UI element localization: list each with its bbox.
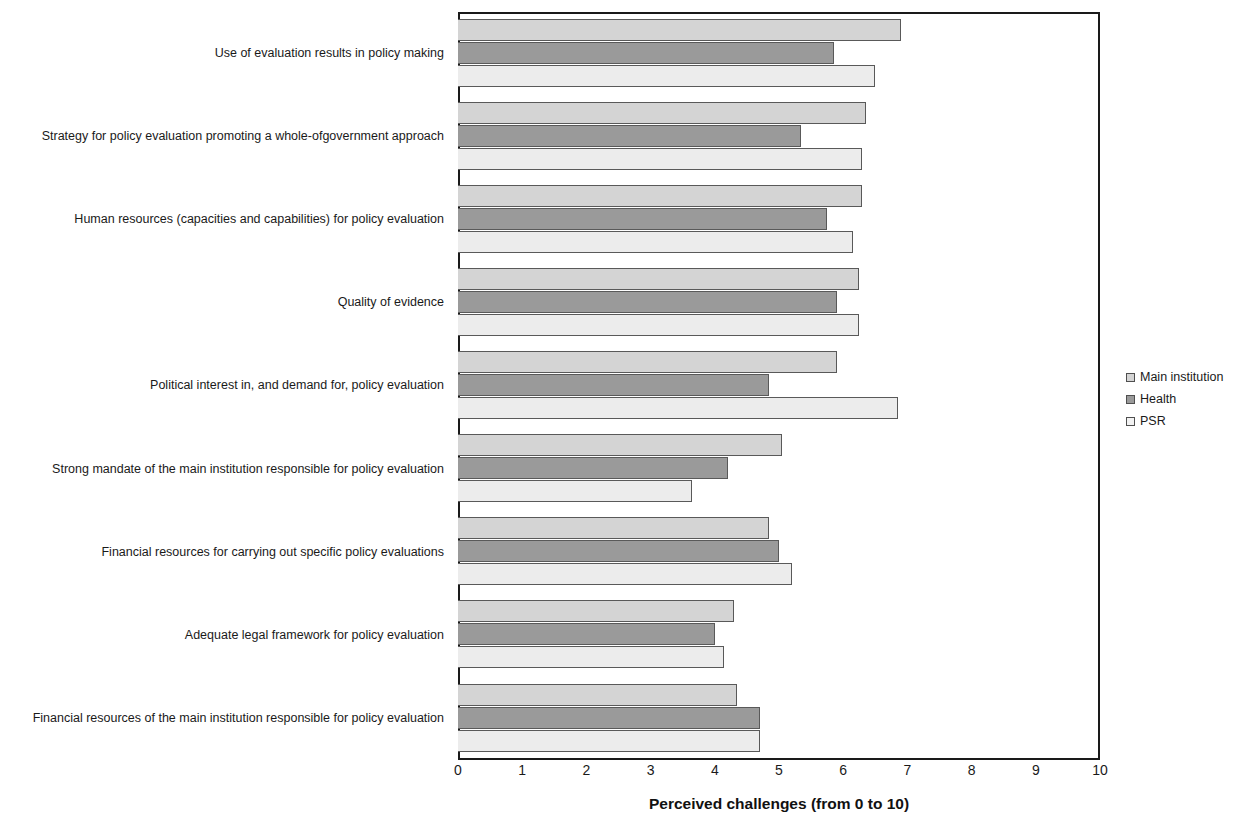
bar-group-bars <box>458 19 1100 89</box>
bar <box>458 291 837 313</box>
bar <box>458 42 834 64</box>
x-axis-tick-label: 9 <box>1032 762 1040 778</box>
bar <box>458 208 827 230</box>
bar <box>458 600 734 622</box>
category-label: Financial resources for carrying out spe… <box>101 545 444 560</box>
bar <box>458 65 875 87</box>
x-axis-ticks: 012345678910 <box>458 762 1100 788</box>
bar-groups <box>458 12 1100 760</box>
bar-group-bars <box>458 185 1100 255</box>
bar <box>458 185 862 207</box>
category-label-row: Financial resources for carrying out spe… <box>0 511 452 594</box>
category-label: Political interest in, and demand for, p… <box>150 378 444 393</box>
category-label-row: Adequate legal framework for policy eval… <box>0 594 452 677</box>
legend-label: Health <box>1140 392 1176 406</box>
legend-swatch-icon <box>1126 373 1135 382</box>
bar <box>458 646 724 668</box>
bar <box>458 540 779 562</box>
bar <box>458 434 782 456</box>
bar-group-bars <box>458 517 1100 587</box>
chart-legend: Main institutionHealthPSR <box>1126 366 1237 432</box>
bar-group <box>458 594 1100 677</box>
bar <box>458 351 837 373</box>
category-axis-labels: Use of evaluation results in policy maki… <box>0 12 452 760</box>
legend-swatch-icon <box>1126 395 1135 404</box>
legend-item[interactable]: PSR <box>1126 410 1237 432</box>
category-label: Strong mandate of the main institution r… <box>52 462 444 477</box>
bar-group <box>458 261 1100 344</box>
x-axis-tick-label: 4 <box>711 762 719 778</box>
legend-item[interactable]: Main institution <box>1126 366 1237 388</box>
bar <box>458 125 801 147</box>
category-label: Quality of evidence <box>338 295 444 310</box>
bar <box>458 397 898 419</box>
category-label-row: Political interest in, and demand for, p… <box>0 344 452 427</box>
bar <box>458 102 866 124</box>
x-axis-tick-label: 0 <box>454 762 462 778</box>
category-label: Human resources (capacities and capabili… <box>74 212 444 227</box>
bar-group <box>458 12 1100 95</box>
bar-group-bars <box>458 351 1100 421</box>
bar-group-bars <box>458 268 1100 338</box>
category-label: Financial resources of the main institut… <box>33 711 444 726</box>
x-axis-tick-label: 6 <box>839 762 847 778</box>
legend-item[interactable]: Health <box>1126 388 1237 410</box>
x-axis-tick-label: 10 <box>1092 762 1108 778</box>
legend-label: Main institution <box>1140 370 1223 384</box>
bar-group-bars <box>458 102 1100 172</box>
bar-group <box>458 178 1100 261</box>
x-axis-tick-label: 7 <box>903 762 911 778</box>
category-label-row: Quality of evidence <box>0 261 452 344</box>
x-axis-tick-label: 8 <box>968 762 976 778</box>
bar-group <box>458 677 1100 760</box>
category-label-row: Human resources (capacities and capabili… <box>0 178 452 261</box>
bar-group <box>458 428 1100 511</box>
bar <box>458 480 692 502</box>
bar <box>458 314 859 336</box>
x-axis-tick-label: 5 <box>775 762 783 778</box>
bar <box>458 563 792 585</box>
bar <box>458 374 769 396</box>
category-label-row: Strategy for policy evaluation promoting… <box>0 95 452 178</box>
x-axis-title: Perceived challenges (from 0 to 10) <box>458 795 1100 813</box>
bar-group-bars <box>458 600 1100 670</box>
bar <box>458 268 859 290</box>
bar <box>458 707 760 729</box>
bar <box>458 684 737 706</box>
bar <box>458 19 901 41</box>
bar <box>458 517 769 539</box>
category-label: Strategy for policy evaluation promoting… <box>42 129 444 144</box>
x-axis-tick-label: 1 <box>518 762 526 778</box>
bar-group <box>458 344 1100 427</box>
category-label-row: Use of evaluation results in policy maki… <box>0 12 452 95</box>
category-label-row: Financial resources of the main institut… <box>0 677 452 760</box>
bar <box>458 231 853 253</box>
category-label: Adequate legal framework for policy eval… <box>185 628 444 643</box>
bar <box>458 148 862 170</box>
category-label-row: Strong mandate of the main institution r… <box>0 428 452 511</box>
chart-page: Use of evaluation results in policy maki… <box>0 0 1237 829</box>
x-axis-tick-label: 2 <box>582 762 590 778</box>
category-label: Use of evaluation results in policy maki… <box>215 46 444 61</box>
legend-label: PSR <box>1140 414 1166 428</box>
bar <box>458 457 728 479</box>
bar-group-bars <box>458 434 1100 504</box>
bar-group <box>458 95 1100 178</box>
bar <box>458 730 760 752</box>
x-axis-tick-label: 3 <box>647 762 655 778</box>
bar-group-bars <box>458 684 1100 754</box>
bar-group <box>458 511 1100 594</box>
legend-swatch-icon <box>1126 417 1135 426</box>
bar <box>458 623 715 645</box>
